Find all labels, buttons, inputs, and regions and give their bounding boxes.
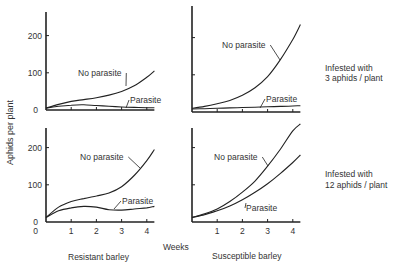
x-axis-label: Weeks xyxy=(163,242,189,252)
label-parasite: Parasite xyxy=(246,203,277,213)
leader-line xyxy=(128,157,140,168)
y-tick-label: 200 xyxy=(28,31,42,41)
panel-top-left: 1002000No parasiteParasite xyxy=(28,12,162,115)
label-parasite: Parasite xyxy=(130,95,161,105)
y-tick-label: 200 xyxy=(28,143,42,153)
panel-top-right: No parasiteParasite xyxy=(192,6,300,112)
y-tick-label: 100 xyxy=(28,68,42,78)
x-tick-label: 2 xyxy=(240,226,245,236)
leader-line xyxy=(270,45,280,60)
panel-bottom-left: 100200012340No parasiteParasite xyxy=(28,128,155,236)
column-label-susceptible: Susceptible barley xyxy=(212,251,282,261)
origin-label: 0 xyxy=(33,105,38,115)
label-no-parasite: No parasite xyxy=(80,152,124,162)
aphid-growth-chart: 1002000No parasiteParasiteNo parasitePar… xyxy=(0,0,395,268)
label-no-parasite: No parasite xyxy=(214,152,258,162)
x-tick-label: 4 xyxy=(290,226,295,236)
row-label-top-line1: Infested with xyxy=(325,63,373,73)
label-parasite: Parasite xyxy=(122,196,153,206)
leader-line xyxy=(114,201,121,209)
x-tick-label: 4 xyxy=(144,226,149,236)
y-axis-label: Aphids per plant xyxy=(5,99,15,165)
label-parasite: Parasite xyxy=(266,94,297,104)
column-label-resistant: Resistant barley xyxy=(68,252,130,262)
row-label-top-line2: 3 aphids / plant xyxy=(325,73,383,83)
x-tick-label: 1 xyxy=(69,226,74,236)
x-tick-label: 2 xyxy=(94,226,99,236)
leader-line xyxy=(262,157,268,166)
label-no-parasite: No parasite xyxy=(78,68,122,78)
x-tick-label: 3 xyxy=(119,226,124,236)
series-parasite xyxy=(46,105,154,108)
label-no-parasite: No parasite xyxy=(222,40,266,50)
y-tick-label: 100 xyxy=(28,180,42,190)
row-label-bottom-line2: 12 aphids / plant xyxy=(325,180,388,190)
x-tick-label: 1 xyxy=(215,226,220,236)
x-tick-label: 3 xyxy=(265,226,270,236)
origin-label-x: 0 xyxy=(33,226,38,236)
row-label-bottom-line1: Infested with xyxy=(325,169,373,179)
panel-bottom-right: 1234No parasiteParasite xyxy=(192,124,300,236)
series-parasite xyxy=(46,206,154,217)
